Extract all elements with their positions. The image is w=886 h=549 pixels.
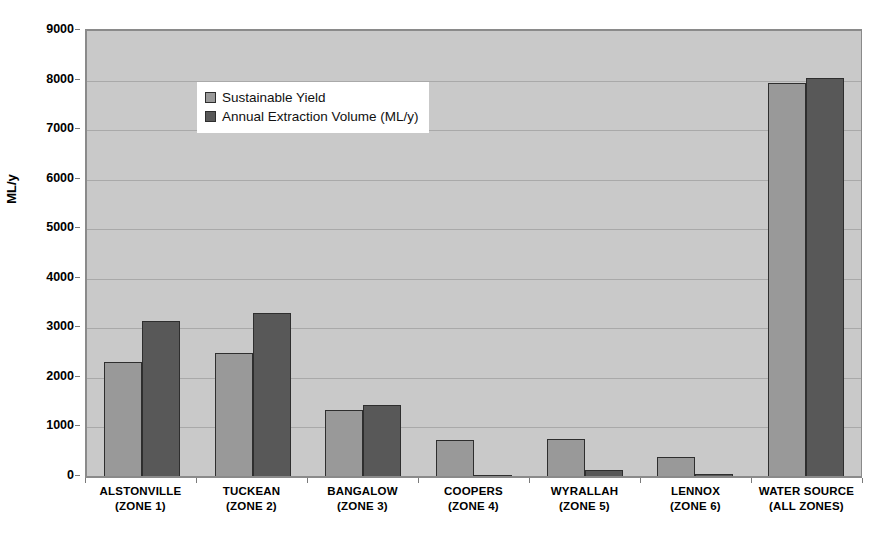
y-axis-tick-mark <box>75 376 80 377</box>
x-axis-label-line: BANGALOW <box>307 484 418 499</box>
y-axis-tick-mark <box>75 277 80 278</box>
legend-item-label: Annual Extraction Volume (ML/y) <box>222 109 419 124</box>
y-axis-tick-mark <box>75 475 80 476</box>
x-axis-label-line: (ZONE 5) <box>529 499 640 514</box>
bar <box>104 362 142 476</box>
bar <box>215 353 253 476</box>
x-axis-tick-mark <box>85 478 86 483</box>
x-axis-label-line: (ZONE 6) <box>640 499 751 514</box>
bar <box>363 405 401 476</box>
y-axis-tick-mark <box>75 178 80 179</box>
x-axis-label-line: (ZONE 4) <box>418 499 529 514</box>
legend: Sustainable Yield Annual Extraction Volu… <box>197 82 429 133</box>
y-axis-tick-labels: 9000800070006000500040003000200010000 <box>24 29 80 478</box>
x-axis-labels: ALSTONVILLE(ZONE 1)TUCKEAN(ZONE 2)BANGAL… <box>85 484 862 514</box>
x-axis-label: ALSTONVILLE(ZONE 1) <box>85 484 196 514</box>
x-axis-label-line: WATER SOURCE <box>751 484 862 499</box>
x-axis-label: WATER SOURCE(ALL ZONES) <box>751 484 862 514</box>
x-axis-label-line: WYRALLAH <box>529 484 640 499</box>
x-axis-tick-mark <box>196 478 197 483</box>
x-axis-tick-mark <box>307 478 308 483</box>
y-axis-tick-label: 8000 <box>18 73 74 86</box>
bar <box>768 83 806 476</box>
x-axis-label-line: COOPERS <box>418 484 529 499</box>
bar <box>547 439 585 476</box>
plot-area: Sustainable Yield Annual Extraction Volu… <box>85 29 862 478</box>
x-axis-label: BANGALOW(ZONE 3) <box>307 484 418 514</box>
y-axis-tick-mark <box>75 425 80 426</box>
y-axis-tick-mark <box>75 227 80 228</box>
legend-swatch-icon <box>205 92 216 103</box>
y-axis-tick-label: 3000 <box>18 320 74 333</box>
bar-chart: ML/y 90008000700060005000400030002000100… <box>0 0 886 549</box>
y-axis-tick-label: 7000 <box>18 122 74 135</box>
x-axis-label-line: (ZONE 3) <box>307 499 418 514</box>
x-axis-label: TUCKEAN(ZONE 2) <box>196 484 307 514</box>
y-axis-tick-label: 4000 <box>18 271 74 284</box>
y-axis-tick-mark <box>75 29 80 30</box>
legend-swatch-icon <box>205 111 216 122</box>
x-axis-label-line: ALSTONVILLE <box>85 484 196 499</box>
y-axis-tick-label: 6000 <box>18 172 74 185</box>
bar <box>436 440 474 476</box>
bar-group <box>750 31 861 476</box>
y-axis-tick-label: 1000 <box>18 419 74 432</box>
x-axis-label-line: TUCKEAN <box>196 484 307 499</box>
bar-group <box>87 31 198 476</box>
x-axis-tick-mark <box>751 478 752 483</box>
bar <box>142 321 180 476</box>
x-axis-label-line: LENNOX <box>640 484 751 499</box>
bar <box>325 410 363 476</box>
x-axis-label: COOPERS(ZONE 4) <box>418 484 529 514</box>
bar-group <box>419 31 530 476</box>
legend-item-label: Sustainable Yield <box>222 90 326 105</box>
y-axis-tick-label: 9000 <box>18 23 74 36</box>
x-axis-label-line: (ALL ZONES) <box>751 499 862 514</box>
x-axis-label: LENNOX(ZONE 6) <box>640 484 751 514</box>
legend-item-annual-extraction-volume: Annual Extraction Volume (ML/y) <box>205 107 419 126</box>
x-axis-tick-mark <box>862 478 863 483</box>
bar <box>585 470 623 476</box>
y-axis-tick-label: 0 <box>18 469 74 482</box>
bar <box>695 474 733 476</box>
bar <box>253 313 291 476</box>
x-axis-label-line: (ZONE 2) <box>196 499 307 514</box>
bar <box>806 78 844 476</box>
y-axis-tick-mark <box>75 79 80 80</box>
x-axis-tick-mark <box>640 478 641 483</box>
x-axis-label: WYRALLAH(ZONE 5) <box>529 484 640 514</box>
y-axis-tick-label: 2000 <box>18 370 74 383</box>
legend-item-sustainable-yield: Sustainable Yield <box>205 88 419 107</box>
bar-group <box>640 31 751 476</box>
y-axis-tick-mark <box>75 326 80 327</box>
y-axis-tick-label: 5000 <box>18 221 74 234</box>
x-axis-tick-mark <box>529 478 530 483</box>
x-axis-label-line: (ZONE 1) <box>85 499 196 514</box>
y-axis-tick-mark <box>75 128 80 129</box>
bar-group <box>529 31 640 476</box>
x-axis-tick-mark <box>418 478 419 483</box>
bar <box>657 457 695 476</box>
bar <box>474 475 512 476</box>
